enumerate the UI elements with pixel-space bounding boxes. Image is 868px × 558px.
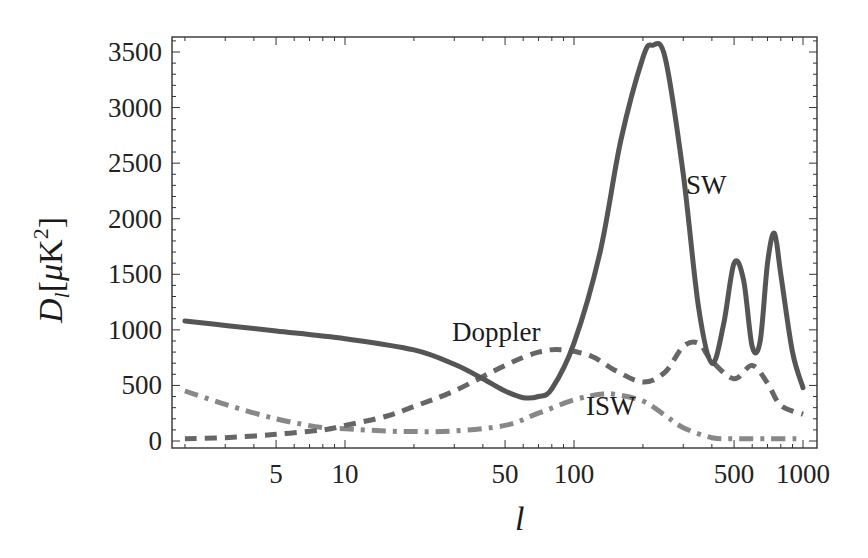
y-tick-label: 3500 xyxy=(108,37,162,67)
y-axis-title-symbol: D xyxy=(32,298,69,324)
y-axis-title-kelvin: K xyxy=(32,239,69,264)
y-axis-title-superscript: 2 xyxy=(28,228,53,239)
y-axis-title-bracket-open: [ xyxy=(32,281,69,292)
annotation-sw: SW xyxy=(686,170,727,200)
y-axis-title-bracket-close: ] xyxy=(32,217,69,228)
y-tick-label: 1500 xyxy=(108,259,162,289)
x-tick-label: 50 xyxy=(492,459,519,489)
y-tick-label: 500 xyxy=(122,370,163,400)
annotation-isw: ISW xyxy=(586,391,636,421)
cmb-power-spectrum-chart: 0500100015002000250030003500 51050100500… xyxy=(0,0,868,558)
x-tick-label: 5 xyxy=(269,459,283,489)
y-tick-label: 3000 xyxy=(108,93,162,123)
annotation-doppler: Doppler xyxy=(452,317,540,347)
y-tick-label: 2000 xyxy=(108,204,162,234)
y-tick-label: 1000 xyxy=(108,315,162,345)
x-tick-label: 1000 xyxy=(776,459,830,489)
y-axis-title-mu: μ xyxy=(32,264,69,282)
x-tick-label: 500 xyxy=(714,459,755,489)
x-axis-title: l xyxy=(515,500,524,537)
x-tick-label: 10 xyxy=(332,459,359,489)
y-tick-label: 2500 xyxy=(108,148,162,178)
y-tick-label: 0 xyxy=(149,426,163,456)
x-tick-label: 100 xyxy=(554,459,595,489)
